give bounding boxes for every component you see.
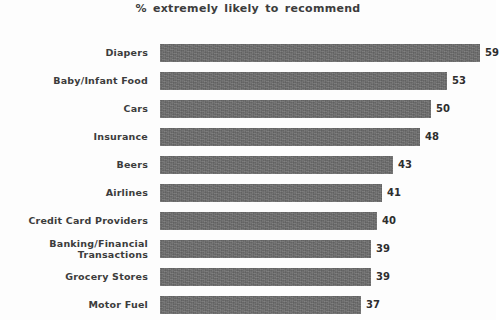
bar-value-label: 39: [376, 243, 390, 254]
category-label: Cars: [0, 103, 148, 114]
chart-row: Diapers59: [0, 44, 496, 72]
category-label-line1: Insurance: [94, 131, 148, 142]
category-label-line1: Diapers: [105, 47, 148, 58]
bar-value-label: 53: [452, 75, 466, 86]
category-label-line1: Baby/Infant Food: [53, 75, 148, 86]
bar: [160, 296, 361, 314]
bar: [160, 128, 420, 146]
bar-track: 48: [160, 128, 496, 146]
bar: [160, 240, 371, 258]
category-label: Banking/FinancialTransactions: [0, 238, 148, 260]
bar-track: 37: [160, 296, 496, 314]
chart-row: Credit Card Providers40: [0, 212, 496, 240]
category-label-line1: Banking/Financial: [49, 238, 148, 249]
category-label-line1: Cars: [123, 103, 148, 114]
bar-track: 39: [160, 268, 496, 286]
bar-track: 41: [160, 184, 496, 202]
bar-value-label: 59: [485, 47, 499, 58]
bar-value-label: 43: [398, 159, 412, 170]
bar-track: 43: [160, 156, 496, 174]
bar-value-label: 40: [382, 215, 396, 226]
bar-track: 59: [160, 44, 496, 62]
chart-row: Beers43: [0, 156, 496, 184]
bar-value-label: 48: [425, 131, 439, 142]
chart-row: Airlines41: [0, 184, 496, 212]
chart-row: Insurance48: [0, 128, 496, 156]
category-label-line2: Transactions: [0, 249, 148, 260]
chart-row: Grocery Stores39: [0, 268, 496, 296]
bar: [160, 212, 377, 230]
chart-row: Banking/FinancialTransactions39: [0, 240, 496, 268]
chart-row: Cars50: [0, 100, 496, 128]
bar: [160, 72, 447, 90]
bar: [160, 156, 393, 174]
category-label: Credit Card Providers: [0, 215, 148, 226]
bar: [160, 100, 431, 118]
chart-title: % extremely likely to recommend: [0, 2, 496, 15]
bar: [160, 184, 382, 202]
category-label: Motor Fuel: [0, 299, 148, 310]
bar-value-label: 50: [436, 103, 450, 114]
category-label-line1: Grocery Stores: [65, 271, 148, 282]
category-label-line1: Motor Fuel: [88, 299, 148, 310]
category-label: Diapers: [0, 47, 148, 58]
bar: [160, 268, 371, 286]
category-label-line1: Beers: [117, 159, 148, 170]
bar-value-label: 41: [387, 187, 401, 198]
category-label-line1: Airlines: [106, 187, 148, 198]
bar-value-label: 37: [366, 299, 380, 310]
bar-value-label: 39: [376, 271, 390, 282]
category-label: Insurance: [0, 131, 148, 142]
category-label-line1: Credit Card Providers: [28, 215, 148, 226]
bar-track: 53: [160, 72, 496, 90]
category-label: Baby/Infant Food: [0, 75, 148, 86]
bar: [160, 44, 480, 62]
category-label: Grocery Stores: [0, 271, 148, 282]
plot-area: Diapers59Baby/Infant Food53Cars50Insuran…: [0, 44, 496, 320]
chart-row: Motor Fuel37: [0, 296, 496, 320]
bar-track: 40: [160, 212, 496, 230]
bar-track: 39: [160, 240, 496, 258]
category-label: Beers: [0, 159, 148, 170]
chart-row: Baby/Infant Food53: [0, 72, 496, 100]
category-label: Airlines: [0, 187, 148, 198]
bar-track: 50: [160, 100, 496, 118]
